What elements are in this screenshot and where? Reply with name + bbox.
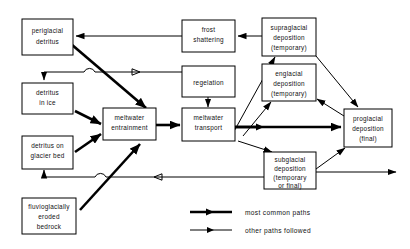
node-label: bedrock [37,223,62,230]
node-meltwater-entrainment[interactable]: meltwater entrainment [103,108,156,140]
node-regelation[interactable]: regelation [182,66,235,97]
node-label: subglacial [275,156,306,164]
node-label: glacier bed [30,152,64,160]
node-proglacial-deposition[interactable]: proglacial deposition (final) [344,109,392,147]
node-label: periglacial [32,27,64,35]
node-label: (temporary [273,174,307,182]
node-meltwater-transport[interactable]: meltwater transport [182,108,235,141]
node-subglacial-deposition[interactable]: subglacial deposition (temporary or fina… [264,152,316,190]
node-label: shattering [193,36,224,44]
node-label: englacial [275,70,302,78]
node-englacial-deposition[interactable]: englacial deposition (temporary) [262,64,316,101]
node-label: deposition [352,125,384,133]
node-label: or final) [278,182,302,190]
node-label: proglacial [353,115,383,123]
node-label: detritus [36,38,59,45]
node-label: (temporary) [271,44,307,52]
node-label: transport [195,124,222,132]
node-label: entrainment [111,124,148,131]
node-label: regelation [193,79,224,87]
node-label: deposition [274,165,306,173]
node-label: meltwater [115,114,146,121]
node-label: fluvioglacially [28,203,70,211]
node-label: frost [202,26,216,33]
node-label: (temporary) [271,90,307,98]
node-fluvioglacially-eroded-bedrock[interactable]: fluvioglacially eroded bedrock [22,198,76,234]
node-frost-shattering[interactable]: frost shattering [182,20,235,52]
legend-label: most common paths [245,209,311,217]
node-detritus-in-ice[interactable]: detritus in ice [22,83,73,114]
node-label: (final) [359,135,377,143]
node-label: deposition [273,80,305,88]
node-label: meltwater [194,114,225,121]
node-label: deposition [273,34,305,42]
flow-diagram: periglacial detritus detritus in ice det… [0,0,410,249]
node-supraglacial-deposition[interactable]: supraglacial deposition (temporary) [262,18,316,56]
node-label: detritus [36,89,59,96]
node-label: detritus on [31,142,64,149]
node-label: eroded [38,213,60,220]
node-label: in ice [39,99,56,106]
node-periglacial-detritus[interactable]: periglacial detritus [22,19,73,55]
legend-label: other paths followed [245,227,311,235]
node-label: supraglacial [270,24,307,32]
node-detritus-on-glacier-bed[interactable]: detritus on glacier bed [22,136,73,169]
